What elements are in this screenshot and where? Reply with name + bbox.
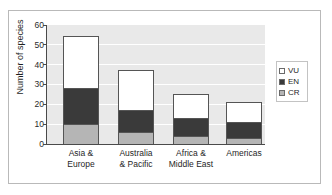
plot-area: [46, 25, 265, 144]
legend-label-en: EN: [288, 78, 299, 86]
x-axis-line: [46, 144, 265, 145]
bar-segment-vu: [173, 94, 209, 118]
y-axis-line: [46, 25, 47, 145]
x-tick-label-americas: Americas: [212, 148, 276, 159]
x-axis-tick-labels: Asia & Europe Australia & Pacific Africa…: [46, 148, 265, 178]
chart-figure: Number of species 60 50 40 30 20 10 0: [0, 0, 332, 195]
bar-segment-vu: [226, 102, 262, 122]
y-tick-label: 50: [22, 41, 44, 49]
legend-swatch-cr-icon: [279, 90, 285, 96]
legend-swatch-vu-icon: [279, 68, 285, 74]
legend-label-cr: CR: [288, 89, 300, 97]
legend-item-en[interactable]: EN: [279, 76, 304, 87]
y-tick-label: 40: [22, 61, 44, 69]
bar-asia-europe[interactable]: [63, 36, 99, 144]
y-tick-label: 10: [22, 120, 44, 128]
bar-segment-cr: [173, 136, 209, 144]
chart-legend: VU EN CR: [276, 61, 308, 102]
bar-segment-en: [226, 122, 262, 138]
bar-segment-en: [63, 88, 99, 124]
y-tick-label: 0: [22, 140, 44, 148]
bar-segment-en: [173, 118, 209, 136]
y-axis-tick-labels: 60 50 40 30 20 10 0: [18, 0, 44, 195]
x-tick-label-line: Middle East: [159, 159, 223, 170]
legend-item-cr[interactable]: CR: [279, 87, 304, 98]
bar-americas[interactable]: [226, 102, 262, 144]
y-tick-label: 60: [22, 21, 44, 29]
bar-segment-vu: [118, 70, 154, 110]
legend-label-vu: VU: [288, 67, 299, 75]
y-tick-label: 30: [22, 80, 44, 88]
x-tick-label-line: Americas: [212, 148, 276, 159]
y-tick-label: 20: [22, 100, 44, 108]
bar-africa-middle-east[interactable]: [173, 94, 209, 144]
bar-australia-pacific[interactable]: [118, 70, 154, 144]
bar-segment-cr: [118, 132, 154, 144]
bar-segment-vu: [63, 36, 99, 88]
bar-segment-cr: [63, 124, 99, 144]
bar-segment-en: [118, 110, 154, 132]
legend-item-vu[interactable]: VU: [279, 65, 304, 76]
legend-swatch-en-icon: [279, 79, 285, 85]
